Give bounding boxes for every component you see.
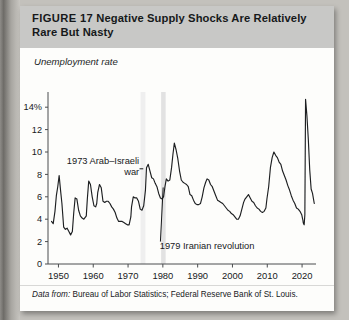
x-tick-label-5: 2000 xyxy=(222,270,243,281)
chart-plot-area: 02468101214% 195019601970198019902000201… xyxy=(20,6,334,311)
y-tick-label-0: 0 xyxy=(37,259,42,269)
x-tick-label-4: 1990 xyxy=(187,270,208,281)
y-tick-label-6: 12 xyxy=(32,125,42,135)
source-prefix: Data from: xyxy=(32,290,70,299)
y-tick-label-5: 10 xyxy=(32,147,42,157)
footer-divider xyxy=(20,285,334,286)
x-tick-label-7: 2020 xyxy=(292,270,313,281)
y-tick-label-4: 8 xyxy=(37,170,42,180)
shade-band-0 xyxy=(141,92,146,264)
annotation-arab-israeli-war-line2: war xyxy=(123,167,139,177)
figure-card: FIGURE 17 Negative Supply Shocks Are Rel… xyxy=(20,6,334,311)
annotation-iranian-revolution: 1979 Iranian revolution xyxy=(160,241,255,251)
x-tick-label-0: 1950 xyxy=(48,270,69,281)
shade-band-1 xyxy=(161,92,166,264)
annotation-arab-israeli-war-line1: 1973 Arab–Israeli xyxy=(67,156,139,166)
y-tick-label-2: 4 xyxy=(37,214,42,224)
page-gutter-shadow xyxy=(0,0,20,320)
x-tick-label-1: 1960 xyxy=(83,270,104,281)
book-page: FIGURE 17 Negative Supply Shocks Are Rel… xyxy=(0,0,349,320)
y-tick-label-1: 2 xyxy=(37,237,42,247)
unemployment-rate-line xyxy=(51,99,314,235)
x-axis-ticks: 19501960197019801990200020102020 xyxy=(48,264,312,281)
x-tick-label-3: 1980 xyxy=(152,270,173,281)
x-tick-label-2: 1970 xyxy=(118,270,139,281)
y-tick-label-7: 14% xyxy=(24,102,42,112)
chart-annotations: 1973 Arab–Israeliwar1979 Iranian revolut… xyxy=(67,156,255,251)
source-text: Bureau of Labor Statistics; Federal Rese… xyxy=(73,290,298,299)
x-tick-label-6: 2010 xyxy=(257,270,278,281)
source-note: Data from: Bureau of Labor Statistics; F… xyxy=(32,290,332,299)
unemployment-line-chart: 02468101214% 195019601970198019902000201… xyxy=(20,6,334,311)
y-axis-ticks: 02468101214% xyxy=(24,102,48,269)
y-tick-label-3: 6 xyxy=(37,192,42,202)
